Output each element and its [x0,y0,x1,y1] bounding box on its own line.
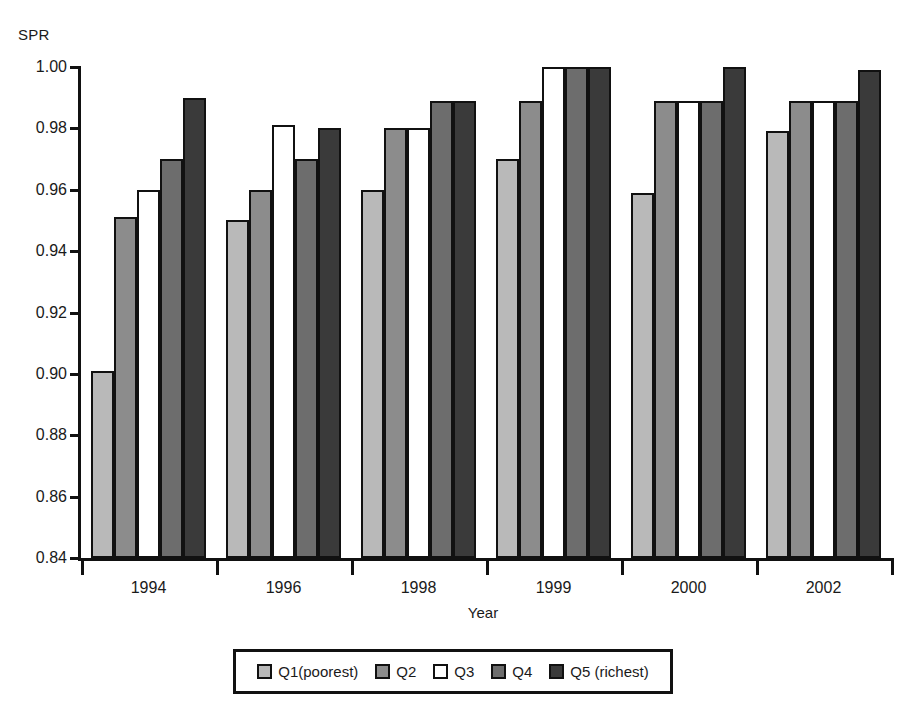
y-axis-tick [70,557,81,560]
x-axis-tick [81,558,84,575]
bar [542,67,565,558]
bar [766,131,789,558]
y-axis-tick [70,312,81,315]
chart-figure: SPR 1.000.980.960.940.920.900.880.860.84… [0,0,905,723]
bar [812,101,835,558]
y-axis-tick-label: 0.88 [36,427,67,443]
bar [588,67,611,558]
legend-item: Q4 [491,664,532,679]
x-axis-tick-label: 1998 [401,580,437,596]
legend-item: Q3 [433,664,474,679]
x-axis-tick-label: 1996 [266,580,302,596]
bar [654,101,677,558]
bar [318,128,341,558]
bar [723,67,746,558]
bar [384,128,407,558]
x-axis-title: Year [468,604,498,621]
x-axis-tick [756,558,759,575]
bar [453,101,476,558]
plot-area: 1.000.980.960.940.920.900.880.860.84 199… [78,67,891,561]
y-axis-tick [70,250,81,253]
legend-item-label: Q2 [396,664,416,679]
x-axis-tick [891,558,894,575]
x-axis-tick [621,558,624,575]
legend-swatch-icon [433,664,448,679]
y-axis-tick [70,66,81,69]
legend-item-label: Q4 [512,664,532,679]
y-axis-tick-label: 0.98 [36,120,67,136]
legend-item: Q1(poorest) [257,664,358,679]
x-axis-tick-label: 1999 [536,580,572,596]
legend-swatch-icon [549,664,564,679]
y-axis-tick-label: 0.90 [36,366,67,382]
bar [565,67,588,558]
y-axis-tick-label: 0.96 [36,182,67,198]
bar [137,190,160,558]
y-axis-tick-label: 0.86 [36,489,67,505]
bar [183,98,206,558]
bar [407,128,430,558]
bar [677,101,700,558]
bar [91,371,114,558]
legend-item-label: Q1(poorest) [278,664,358,679]
bar [858,70,881,558]
legend-swatch-icon [491,664,506,679]
bar [114,217,137,558]
x-axis-tick [351,558,354,575]
y-axis-tick-label: 0.94 [36,243,67,259]
bar [295,159,318,558]
x-axis-tick-label: 1994 [131,580,167,596]
bar [272,125,295,558]
legend-swatch-icon [375,664,390,679]
bar [789,101,812,558]
bar [700,101,723,558]
x-axis-tick [486,558,489,575]
bar [160,159,183,558]
bar [361,190,384,558]
y-axis-tick [70,434,81,437]
x-axis-tick-label: 2000 [671,580,707,596]
x-axis-tick-label: 2002 [806,580,842,596]
bar [519,101,542,558]
legend-item-label: Q3 [454,664,474,679]
bar [496,159,519,558]
y-axis-tick [70,496,81,499]
bar [835,101,858,558]
y-axis-tick [70,373,81,376]
y-axis-tick [70,189,81,192]
legend-item: Q5 (richest) [549,664,648,679]
y-axis-title: SPR [18,26,49,43]
legend-item-label: Q5 (richest) [570,664,648,679]
y-axis-tick-label: 1.00 [36,59,67,75]
y-axis-tick-label: 0.92 [36,305,67,321]
bar [430,101,453,558]
bar [631,193,654,558]
legend-swatch-icon [257,664,272,679]
bar [226,220,249,558]
y-axis-tick [70,127,81,130]
x-axis-tick [216,558,219,575]
legend-item: Q2 [375,664,416,679]
bar [249,190,272,558]
y-axis-tick-label: 0.84 [36,550,67,566]
chart-legend: Q1(poorest)Q2Q3Q4Q5 (richest) [233,649,673,694]
